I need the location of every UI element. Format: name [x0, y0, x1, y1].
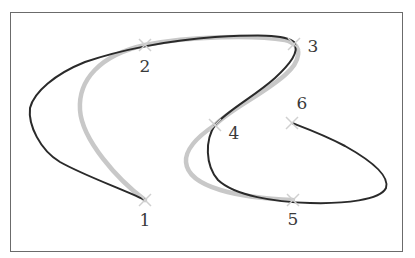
- point-label-2: 2: [140, 58, 151, 75]
- point-label-4: 4: [229, 125, 240, 142]
- marker-4-icon: [209, 119, 221, 131]
- point-label-3: 3: [308, 38, 319, 55]
- point-label-1: 1: [140, 212, 151, 229]
- marker-1-icon: [139, 194, 151, 206]
- curves-svg: [0, 0, 415, 258]
- point-label-5: 5: [288, 211, 299, 228]
- marker-6-icon: [286, 117, 298, 129]
- point-label-6: 6: [297, 95, 308, 112]
- light-curve: [80, 37, 298, 200]
- diagram-canvas: 1 2 3 4 5 6: [0, 0, 415, 258]
